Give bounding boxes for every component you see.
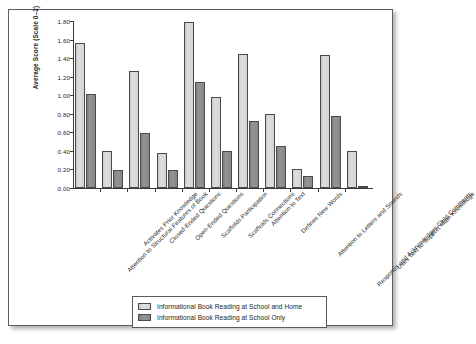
bar[interactable] xyxy=(265,114,275,188)
y-axis-tick-label: 0.60 xyxy=(58,129,70,136)
bar-group xyxy=(318,21,345,188)
figure-frame: Average Score (Scale 0–2) 0.000.200.400.… xyxy=(8,9,393,326)
bar[interactable] xyxy=(238,54,248,188)
bar[interactable] xyxy=(75,43,85,188)
y-axis-tick-label: 1.20 xyxy=(58,73,70,80)
y-axis-tick-label: 1.00 xyxy=(58,92,70,99)
y-axis-tick-label: 0.00 xyxy=(58,185,70,192)
bar[interactable] xyxy=(331,116,341,188)
bar[interactable] xyxy=(168,170,178,188)
bar[interactable] xyxy=(140,133,150,188)
legend-label-school-and-home: Informational Book Reading at School and… xyxy=(157,303,302,310)
y-axis-tick-label: 0.80 xyxy=(58,110,70,117)
bar[interactable] xyxy=(86,94,96,188)
bar-group xyxy=(73,21,100,188)
legend-swatch-school-and-home xyxy=(138,303,151,310)
bar[interactable] xyxy=(157,153,167,188)
bar[interactable] xyxy=(303,176,313,188)
legend-swatch-school-only xyxy=(138,314,151,321)
bar[interactable] xyxy=(222,151,232,188)
bar[interactable] xyxy=(347,151,357,188)
bar[interactable] xyxy=(211,97,221,188)
x-axis-line xyxy=(73,188,373,189)
x-axis-category-label: Uses Text to Support Main Knowledge xyxy=(396,190,476,270)
y-axis-tick-label: 1.60 xyxy=(58,36,70,43)
bar-group xyxy=(236,21,263,188)
bar-group xyxy=(155,21,182,188)
bar-group xyxy=(182,21,209,188)
legend-item[interactable]: Informational Book Reading at School and… xyxy=(138,301,321,312)
bar[interactable] xyxy=(320,55,330,188)
bar[interactable] xyxy=(102,151,112,188)
chart-legend: Informational Book Reading at School and… xyxy=(132,296,327,328)
bar[interactable] xyxy=(276,146,286,188)
y-axis-tick-mark xyxy=(70,188,73,189)
bar-group xyxy=(209,21,236,188)
x-axis-labels: Attention to Structural Features of Book… xyxy=(73,190,373,290)
legend-label-school-only: Informational Book Reading at School Onl… xyxy=(157,314,285,321)
legend-item[interactable]: Informational Book Reading at School Onl… xyxy=(138,312,321,323)
bar[interactable] xyxy=(249,121,259,188)
y-axis-tick-label: 1.40 xyxy=(58,55,70,62)
bar-group xyxy=(290,21,317,188)
bar-group xyxy=(345,21,372,188)
y-axis-tick-label: 0.40 xyxy=(58,147,70,154)
bar[interactable] xyxy=(195,82,205,188)
y-axis-tick-label: 1.80 xyxy=(58,18,70,25)
x-axis-category-label: Scaffolds Participation xyxy=(220,190,269,239)
bar-group xyxy=(127,21,154,188)
bar-group xyxy=(263,21,290,188)
x-axis-category-label: Attention to Letters and Sounds xyxy=(336,190,404,258)
bar[interactable] xyxy=(292,169,302,188)
x-axis-category-label: Defines New Words xyxy=(299,190,343,234)
plot-area: 0.000.200.400.600.801.001.201.401.601.80 xyxy=(73,21,372,188)
bar[interactable] xyxy=(184,22,194,188)
bar-group xyxy=(100,21,127,188)
bar[interactable] xyxy=(129,71,139,188)
y-axis-title: Average Score (Scale 0–2) xyxy=(32,0,39,107)
y-axis-tick-label: 0.20 xyxy=(58,166,70,173)
bar[interactable] xyxy=(113,170,123,188)
bar[interactable] xyxy=(358,186,368,188)
x-axis-category-label: Attention to Structural Features of Book xyxy=(125,190,208,273)
